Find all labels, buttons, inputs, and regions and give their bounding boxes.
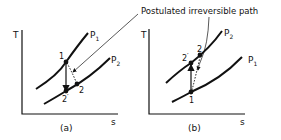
panel-b-p2-label: P2	[224, 28, 233, 40]
panel-b-x-label: s	[240, 117, 245, 127]
panel-a-caption: (a)	[60, 123, 73, 133]
panel-b-point-1	[189, 90, 194, 95]
panel-b-label-2: 2	[197, 45, 202, 54]
panel-b-p1-label: P1	[248, 55, 257, 67]
panel-a-p1-label: P1	[90, 30, 99, 42]
panel-a-irreversible-path	[67, 63, 77, 84]
panel-b-point-2s	[189, 61, 194, 66]
panel-b-label-1: 1	[189, 96, 194, 105]
panel-a-axes	[22, 30, 118, 114]
panel-a-label-1: 1	[59, 52, 64, 61]
panel-a: T s (a) P1 P2 1 2 2′	[12, 30, 120, 133]
panel-a-p2-label: P2	[111, 55, 120, 67]
panel-b-label-2s: 2′	[182, 52, 189, 63]
panel-b-y-label: T	[140, 30, 147, 40]
panel-a-isobar-p1	[36, 33, 88, 89]
panel-a-label-2s: 2′	[62, 93, 69, 104]
panel-a-isobar-p2	[44, 58, 110, 104]
annotation-label: Postulated irreversible path	[141, 6, 258, 16]
panel-a-point-1	[64, 60, 69, 65]
panel-b-isobar-p2	[166, 31, 222, 83]
panel-a-label-2: 2	[79, 86, 84, 95]
leader-line-b	[198, 17, 209, 70]
panel-a-x-label: s	[111, 117, 116, 127]
panel-b-isobar-p1	[172, 57, 242, 102]
panel-b: T s (b) P2 P1 1 2 2′	[140, 28, 257, 133]
ts-diagram: T s (a) P1 P2 1 2 2′ Postulated irrevers…	[0, 0, 281, 140]
panel-b-caption: (b)	[188, 123, 201, 133]
panel-a-y-label: T	[12, 30, 19, 40]
